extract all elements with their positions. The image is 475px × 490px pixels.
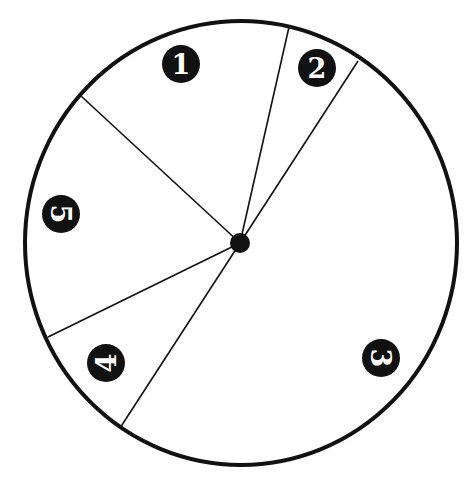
section-label-1: 1 bbox=[172, 51, 191, 78]
section-badge-3: 3 bbox=[362, 339, 400, 377]
spinner-hub bbox=[230, 233, 250, 253]
section-label-2: 2 bbox=[308, 55, 327, 82]
section-label-5: 5 bbox=[48, 205, 75, 224]
section-badge-2: 2 bbox=[298, 49, 336, 87]
section-badge-1: 1 bbox=[162, 45, 200, 83]
section-label-3: 3 bbox=[368, 349, 395, 368]
section-badge-5: 5 bbox=[42, 195, 80, 233]
spinner-diagram: 1 2 3 4 5 bbox=[0, 0, 475, 490]
spinner-graphic bbox=[0, 0, 475, 490]
section-label-4: 4 bbox=[93, 354, 120, 373]
section-badge-4: 4 bbox=[87, 344, 125, 382]
